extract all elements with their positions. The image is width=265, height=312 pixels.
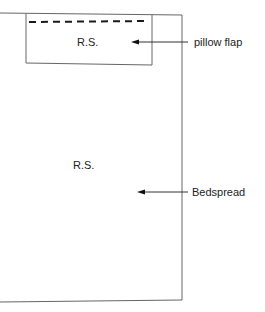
pillow-flap-side-label: R.S. [77,36,98,48]
pillow-flap-arrow-head [131,40,139,45]
bedspread-outline [0,13,182,302]
bedspread-callout: Bedspread [192,186,245,198]
bedspread-arrow-head [137,190,145,195]
stitch-line [29,21,148,22]
bedspread-side-label: R.S. [73,159,94,171]
pillow-flap-callout: pillow flap [194,36,242,48]
